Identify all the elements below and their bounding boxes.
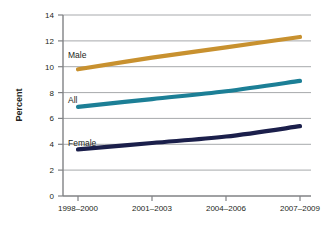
x-tick-label-2: 2004–2006: [206, 204, 247, 213]
series-label-male: Male: [68, 50, 87, 60]
y-tick-label-10: 10: [45, 63, 54, 72]
y-tick-label-12: 12: [45, 37, 54, 46]
x-axis-tick-labels: 1998–2000 2001–2003 2004–2006 2007–2009: [58, 204, 321, 213]
chart-canvas: 14 12 10 8 6 4 2 0 Percent 1998–2000 200…: [0, 0, 327, 227]
y-tick-label-0: 0: [50, 192, 55, 201]
series-label-female: Female: [68, 138, 97, 148]
y-tick-label-6: 6: [50, 114, 55, 123]
y-axis-ticks: [58, 15, 63, 196]
y-tick-label-8: 8: [50, 89, 55, 98]
x-tick-label-1: 2001–2003: [132, 204, 173, 213]
line-chart: 14 12 10 8 6 4 2 0 Percent 1998–2000 200…: [0, 0, 327, 227]
y-tick-label-4: 4: [50, 140, 55, 149]
y-axis-tick-labels: 14 12 10 8 6 4 2 0: [45, 11, 54, 201]
y-tick-label-14: 14: [45, 11, 54, 20]
x-tick-label-3: 2007–2009: [280, 204, 321, 213]
series-label-all: All: [68, 95, 78, 105]
x-tick-label-0: 1998–2000: [58, 204, 99, 213]
y-axis-title: Percent: [14, 88, 24, 121]
y-tick-label-2: 2: [50, 166, 55, 175]
